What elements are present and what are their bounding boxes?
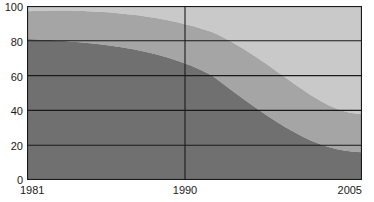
y-tick-label-100: 100	[0, 2, 23, 13]
stacked-area-chart: 100 80 60 40 20 0 19	[0, 0, 374, 202]
y-tick-label-60: 60	[0, 72, 23, 83]
x-tick-label-1990: 1990	[173, 185, 197, 196]
plot-area	[27, 6, 362, 180]
y-tick-label-40: 40	[0, 106, 23, 117]
x-tick-label-1981: 1981	[20, 185, 44, 196]
plot-svg	[27, 6, 362, 180]
x-axis-tick-labels: 1981 1990 2005	[0, 183, 374, 202]
y-tick-label-80: 80	[0, 37, 23, 48]
x-tick-label-2005: 2005	[338, 185, 362, 196]
y-axis-tick-labels: 100 80 60 40 20 0	[0, 0, 23, 202]
y-tick-label-20: 20	[0, 141, 23, 152]
